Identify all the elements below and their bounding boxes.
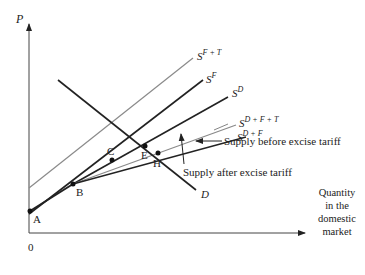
label-point-a: A <box>33 213 41 225</box>
origin-label: 0 <box>28 241 34 253</box>
curve-segment-a-b <box>30 184 73 211</box>
curve-demand <box>58 80 196 190</box>
annotation-supply-before: Supply before excise tariff <box>224 135 341 147</box>
point-e <box>143 144 148 149</box>
point-c <box>110 158 115 163</box>
label-s-d: SD <box>232 87 243 99</box>
arrow-after <box>181 134 184 164</box>
y-axis-label: P <box>16 13 23 25</box>
label-point-h: H <box>153 157 161 169</box>
label-s-f-t: SF + T <box>197 50 221 62</box>
point-a <box>28 209 33 214</box>
label-s-f: SF <box>206 73 216 85</box>
label-point-b: B <box>76 186 83 198</box>
point-h <box>156 151 161 156</box>
label-point-c: C <box>107 145 114 157</box>
label-point-e: E <box>141 149 148 161</box>
annotation-supply-after: Supply after excise tariff <box>183 166 292 178</box>
label-demand: D <box>201 188 209 200</box>
point-b <box>71 182 76 187</box>
x-axis-label: Quantity in the domestic market <box>311 186 363 238</box>
label-s-d-f-t: SD + F + T <box>239 117 278 129</box>
